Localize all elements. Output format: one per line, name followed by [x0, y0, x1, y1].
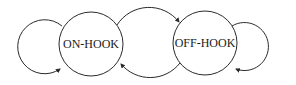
state-off-hook: OFF-HOOK: [173, 11, 237, 75]
transition-on-to-off: [117, 7, 179, 25]
on-hook-self-loop: [18, 20, 62, 74]
state-on-hook: ON-HOOK: [59, 12, 123, 76]
state-diagram: ON-HOOK OFF-HOOK: [0, 0, 296, 85]
off-hook-self-loop: [232, 23, 268, 71]
transition-off-to-on: [121, 63, 180, 78]
state-on-hook-label: ON-HOOK: [63, 37, 119, 51]
state-off-hook-label: OFF-HOOK: [175, 36, 236, 50]
